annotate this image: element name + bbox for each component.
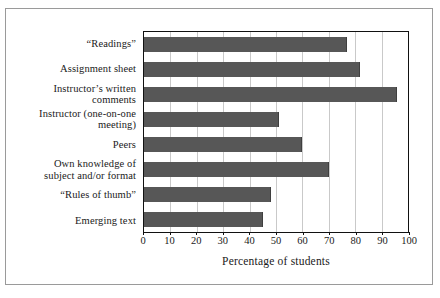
- x-tick-label: 10: [164, 235, 175, 247]
- plot-area: [143, 31, 409, 233]
- bar-row: [144, 82, 408, 107]
- category-label: Own knowledge of subject and/or format: [14, 157, 140, 182]
- category-label: “Readings”: [14, 31, 140, 56]
- bar: [144, 187, 271, 202]
- x-tick-label: 80: [351, 235, 362, 247]
- bar: [144, 87, 397, 102]
- category-label: Instructor’s written comments: [14, 82, 140, 107]
- x-tick-label: 40: [244, 235, 255, 247]
- horizontal-bar-chart: “Readings”Assignment sheetInstructor’s w…: [0, 0, 440, 298]
- x-axis-title: Percentage of students: [143, 255, 409, 267]
- category-axis: “Readings”Assignment sheetInstructor’s w…: [14, 31, 140, 233]
- bar-row: [144, 182, 408, 207]
- bar-row: [144, 207, 408, 232]
- bar: [144, 112, 279, 127]
- x-tick-label: 30: [218, 235, 229, 247]
- bar-row: [144, 157, 408, 182]
- x-tick-label: 20: [191, 235, 202, 247]
- category-label: “Rules of thumb”: [14, 183, 140, 208]
- x-tick-label: 70: [324, 235, 335, 247]
- x-tick-label: 100: [401, 235, 417, 247]
- bar: [144, 162, 329, 177]
- bar-series: [144, 32, 408, 232]
- category-label: Assignment sheet: [14, 56, 140, 81]
- x-tick-label: 90: [377, 235, 388, 247]
- x-tick-label: 0: [140, 235, 145, 247]
- category-label: Peers: [14, 132, 140, 157]
- bar-row: [144, 32, 408, 57]
- category-label: Instructor (one-on-one meeting): [14, 107, 140, 132]
- category-label: Emerging text: [14, 208, 140, 233]
- x-tick-label: 60: [297, 235, 308, 247]
- bar-row: [144, 132, 408, 157]
- bar: [144, 37, 347, 52]
- x-tick-label: 50: [271, 235, 282, 247]
- x-axis-ticks: 0102030405060708090100: [143, 233, 409, 253]
- bar: [144, 212, 263, 227]
- bar: [144, 62, 360, 77]
- bar-row: [144, 107, 408, 132]
- bar: [144, 137, 302, 152]
- bar-row: [144, 57, 408, 82]
